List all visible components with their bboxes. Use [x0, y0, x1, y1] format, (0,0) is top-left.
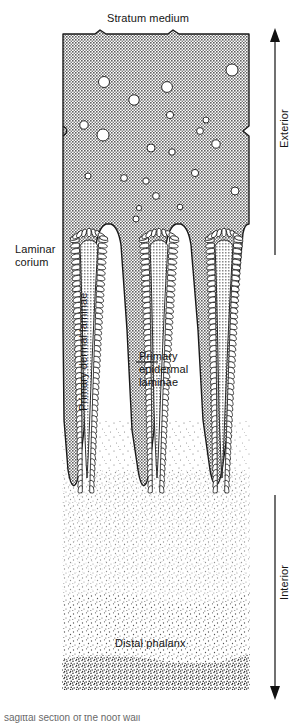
label-exterior: Exterior	[278, 109, 291, 148]
horn-tubule	[212, 140, 220, 148]
primary-dermal-lamina	[96, 302, 103, 307]
primary-dermal-lamina	[96, 313, 103, 319]
label-stratum-medium: Stratum medium	[107, 12, 189, 25]
horn-tubule	[177, 204, 183, 210]
primary-dermal-lamina	[98, 259, 106, 264]
label-interior: Interior	[278, 565, 291, 600]
primary-dermal-lamina	[230, 319, 237, 325]
primary-dermal-lamina	[167, 292, 175, 297]
horn-tubule	[97, 129, 109, 141]
primary-dermal-lamina	[97, 286, 105, 291]
horn-tubule	[169, 149, 175, 155]
horn-tubule	[99, 77, 110, 88]
primary-dermal-lamina	[99, 243, 108, 248]
horn-tubule	[80, 121, 88, 129]
caption-partial: sagittal section of the hoof wall	[4, 715, 290, 723]
primary-dermal-lamina	[97, 270, 105, 275]
label-primary-epidermal-laminae: Primary epidermal laminae	[139, 350, 188, 389]
primary-dermal-lamina	[166, 313, 173, 319]
primary-dermal-lamina	[98, 249, 107, 254]
primary-dermal-lamina	[95, 324, 102, 330]
primary-dermal-lamina	[148, 486, 152, 493]
primary-dermal-lamina	[168, 265, 177, 270]
primary-dermal-lamina	[169, 243, 178, 248]
primary-dermal-lamina	[166, 302, 174, 307]
primary-dermal-lamina	[213, 486, 217, 493]
horn-tubule	[136, 205, 141, 210]
primary-dermal-lamina	[169, 254, 178, 259]
primary-dermal-lamina	[96, 292, 104, 297]
primary-dermal-lamina	[166, 308, 174, 314]
horn-tubule	[166, 111, 173, 118]
primary-dermal-lamina	[166, 319, 173, 325]
horn-tubule	[143, 178, 149, 184]
label-laminar-corium: Laminar corium	[15, 243, 55, 269]
horn-tubule	[226, 64, 238, 76]
primary-dermal-lamina	[168, 259, 177, 264]
horn-tubule	[85, 173, 91, 179]
label-primary-dermal-laminae: Primary dermal laminae	[77, 293, 90, 411]
primary-dermal-lamina	[97, 281, 105, 286]
primary-dermal-lamina	[231, 313, 238, 319]
primary-dermal-lamina	[165, 329, 172, 335]
horn-tubule	[191, 169, 198, 176]
horn-tubule	[197, 128, 204, 135]
primary-dermal-lamina	[157, 228, 161, 236]
horn-tubule	[129, 95, 139, 105]
horn-tubule	[133, 216, 139, 222]
primary-dermal-lamina	[97, 275, 105, 280]
primary-dermal-lamina	[222, 228, 226, 236]
primary-dermal-lamina	[96, 308, 103, 314]
primary-dermal-lamina	[231, 308, 238, 314]
primary-dermal-lamina	[96, 297, 104, 302]
horn-tubule	[147, 144, 155, 152]
primary-dermal-lamina	[225, 486, 229, 493]
primary-dermal-lamina	[169, 249, 178, 254]
primary-dermal-lamina	[167, 297, 175, 302]
horn-tubule	[121, 175, 128, 182]
horn-tubule	[162, 82, 173, 93]
primary-dermal-lamina	[95, 319, 102, 325]
primary-dermal-lamina	[167, 286, 175, 291]
label-distal-phalanx: Distal phalanx	[115, 637, 186, 650]
primary-dermal-lamina	[90, 486, 94, 493]
primary-dermal-lamina	[230, 335, 237, 341]
primary-dermal-lamina	[98, 254, 107, 259]
horn-tubule	[153, 193, 160, 200]
primary-dermal-lamina	[78, 486, 82, 493]
horn-tubule	[203, 117, 209, 123]
caption-partial-text: sagittal section of the hoof wall	[4, 715, 290, 723]
primary-dermal-lamina	[95, 335, 102, 341]
primary-dermal-lamina	[165, 324, 172, 330]
primary-dermal-lamina	[165, 335, 172, 341]
primary-dermal-lamina	[87, 228, 91, 236]
primary-dermal-lamina	[167, 275, 175, 280]
horn-tubule	[231, 187, 239, 195]
primary-dermal-lamina	[167, 281, 175, 286]
primary-dermal-lamina	[95, 329, 102, 335]
primary-dermal-lamina	[97, 265, 105, 270]
primary-dermal-lamina	[230, 324, 237, 330]
primary-dermal-lamina	[168, 270, 176, 275]
primary-dermal-lamina	[160, 486, 164, 493]
primary-dermal-lamina	[230, 329, 237, 335]
